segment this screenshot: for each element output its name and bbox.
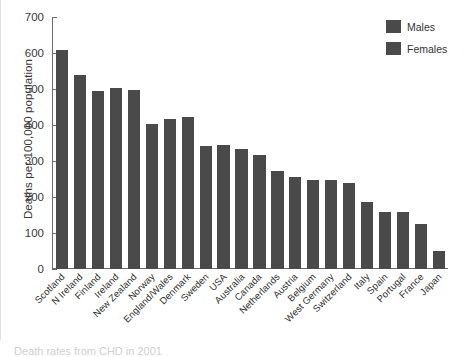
bar bbox=[235, 149, 247, 269]
legend: MalesFemales bbox=[386, 20, 464, 64]
bar bbox=[92, 91, 104, 269]
bar bbox=[74, 75, 86, 269]
y-axis: 0100200300400500600700 bbox=[0, 0, 52, 357]
bar bbox=[379, 212, 391, 269]
bar bbox=[307, 180, 319, 269]
legend-swatch bbox=[386, 42, 401, 55]
y-tick-label: 400 bbox=[25, 118, 52, 132]
bar bbox=[128, 90, 140, 269]
y-tick-mark bbox=[52, 269, 57, 270]
y-tick-label: 300 bbox=[25, 154, 52, 168]
bar bbox=[397, 212, 409, 269]
legend-label: Males bbox=[407, 21, 435, 33]
legend-item: Females bbox=[386, 42, 464, 55]
legend-swatch bbox=[386, 20, 401, 33]
bar bbox=[164, 119, 176, 269]
bar bbox=[146, 124, 158, 269]
bar bbox=[182, 117, 194, 269]
y-tick-label: 500 bbox=[25, 82, 52, 96]
bar bbox=[415, 224, 427, 269]
y-tick-label: 700 bbox=[25, 10, 52, 24]
y-tick-label: 0 bbox=[38, 262, 52, 276]
y-tick-label: 200 bbox=[25, 190, 52, 204]
bar bbox=[110, 88, 122, 269]
bar bbox=[200, 146, 212, 269]
bar bbox=[56, 50, 68, 269]
bar bbox=[361, 202, 373, 269]
bar bbox=[217, 145, 229, 269]
y-tick-label: 100 bbox=[25, 226, 52, 240]
legend-label: Females bbox=[407, 43, 447, 55]
bar bbox=[433, 251, 445, 269]
bar bbox=[343, 183, 355, 269]
bar bbox=[271, 171, 283, 269]
y-tick-label: 600 bbox=[25, 46, 52, 60]
chart-page: Deaths per 100,000 population 0100200300… bbox=[0, 0, 464, 357]
figure-caption: Death rates from CHD in 2001 bbox=[14, 345, 162, 357]
bar bbox=[253, 155, 265, 269]
legend-item: Males bbox=[386, 20, 464, 33]
bar bbox=[289, 177, 301, 269]
bar bbox=[325, 180, 337, 269]
